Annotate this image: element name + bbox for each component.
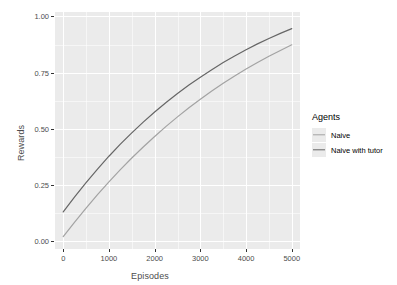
x-tick-mark: [155, 249, 156, 252]
legend-item-label: Naive: [331, 131, 350, 140]
series-line: [63, 45, 292, 237]
y-tick-mark: [51, 185, 54, 186]
series-line: [63, 29, 292, 212]
y-tick-mark: [51, 129, 54, 130]
y-tick-mark: [51, 241, 54, 242]
legend-item[interactable]: Naive with tutor: [312, 143, 394, 157]
legend-key-line: [313, 134, 325, 135]
legend-key-swatch: [312, 128, 326, 142]
y-tick-label: 0.75: [34, 68, 49, 77]
legend-key-swatch: [312, 143, 326, 157]
chart-figure: Rewards Episodes 0.000.250.500.751.00 01…: [0, 0, 397, 285]
x-tick-label: 1000: [101, 254, 118, 263]
legend-item-label: Naive with tutor: [331, 146, 383, 155]
y-tick-label: 0.50: [34, 124, 49, 133]
legend-title: Agents: [312, 112, 394, 122]
y-axis-title: Rewards: [16, 124, 26, 160]
y-tick-label: 0.25: [34, 180, 49, 189]
legend-key-line: [313, 149, 325, 150]
x-tick-mark: [200, 249, 201, 252]
x-tick-label: 4000: [238, 254, 255, 263]
legend: Agents NaiveNaive with tutor: [312, 112, 394, 158]
legend-items: NaiveNaive with tutor: [312, 128, 394, 157]
x-tick-mark: [63, 249, 64, 252]
x-tick-label: 2000: [146, 254, 163, 263]
x-axis-title: Episodes: [0, 271, 300, 281]
y-tick-mark: [51, 73, 54, 74]
x-tick-mark: [292, 249, 293, 252]
x-tick-label: 0: [61, 254, 65, 263]
legend-item[interactable]: Naive: [312, 128, 394, 142]
x-tick-mark: [109, 249, 110, 252]
x-tick-label: 3000: [192, 254, 209, 263]
curve-layer: [55, 12, 300, 249]
y-tick-mark: [51, 16, 54, 17]
y-tick-label: 0.00: [34, 237, 49, 246]
x-tick-mark: [246, 249, 247, 252]
x-tick-label: 5000: [283, 254, 300, 263]
plot-panel: [55, 12, 300, 249]
plot-area: 0.000.250.500.751.00 0100020003000400050…: [55, 12, 300, 249]
y-tick-label: 1.00: [34, 12, 49, 21]
